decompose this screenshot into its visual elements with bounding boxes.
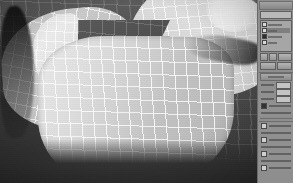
option-text-row [261, 130, 291, 136]
checkbox-icon[interactable] [261, 165, 267, 171]
image-border-bottom [0, 183, 293, 192]
command-panel-tab-bar[interactable] [259, 1, 293, 10]
screenshot-root [0, 0, 293, 192]
modifier-stack-button-row-2[interactable] [260, 62, 292, 70]
viewport[interactable] [0, 0, 257, 183]
modifier-name-input[interactable] [260, 11, 292, 19]
option-label [261, 132, 291, 134]
lightbulb-icon[interactable] [262, 22, 267, 27]
parameters-rollout-header[interactable] [260, 73, 292, 81]
checkbox-icon[interactable] [261, 151, 267, 157]
modifier-stack-item[interactable] [262, 40, 290, 45]
checkbox-icon[interactable] [261, 123, 267, 129]
panel-divider [260, 118, 292, 119]
modifier-stack-item-label [268, 24, 282, 26]
background-shadow-bottom [0, 139, 257, 183]
parameter-label [261, 91, 274, 93]
parameter-label [261, 98, 274, 100]
parameter-row[interactable] [261, 82, 291, 88]
pin-stack-button[interactable] [260, 53, 268, 61]
modifier-stack-item[interactable] [262, 28, 290, 33]
checkbox-label [269, 153, 291, 155]
modifier-stack-item-label [268, 36, 282, 38]
checkbox-label [269, 105, 291, 107]
lightbulb-icon[interactable] [262, 34, 267, 39]
parameter-text-row [261, 110, 291, 116]
command-panel[interactable] [257, 0, 293, 183]
parameters-rollout[interactable] [259, 72, 293, 116]
parameter-spinner[interactable] [276, 89, 291, 96]
checkbox-label [269, 125, 291, 127]
modifier-stack-item-label [268, 42, 277, 44]
option-checkbox-row[interactable] [261, 165, 291, 171]
rollout-title [268, 76, 284, 78]
modifier-stack-item[interactable] [262, 22, 290, 27]
parameter-row[interactable] [261, 89, 291, 95]
checkbox-label [269, 139, 291, 141]
option-checkbox-row[interactable] [261, 137, 291, 143]
parameter-spinner[interactable] [276, 82, 291, 89]
option-text-row [261, 144, 291, 150]
make-unique-button[interactable] [278, 53, 292, 61]
checkbox-icon[interactable] [261, 137, 267, 143]
parameter-spinner[interactable] [276, 96, 291, 103]
parameter-label [261, 112, 291, 114]
option-label [261, 160, 291, 162]
options-rollout[interactable] [259, 121, 293, 171]
checkbox-icon[interactable] [261, 103, 267, 109]
lightbulb-icon[interactable] [262, 28, 267, 33]
show-end-result-button[interactable] [269, 53, 277, 61]
parameter-checkbox-row[interactable] [261, 103, 291, 109]
checkbox-label [269, 167, 291, 169]
parameter-label [261, 84, 274, 86]
option-checkbox-row[interactable] [261, 151, 291, 157]
modifier-stack-item-label [268, 30, 277, 32]
modifier-stack-item[interactable] [262, 34, 290, 39]
modifier-stack-list[interactable] [260, 20, 292, 52]
option-label [261, 146, 291, 148]
lightbulb-icon[interactable] [262, 40, 267, 45]
parameter-row[interactable] [261, 96, 291, 102]
configure-sets-button[interactable] [277, 62, 293, 70]
modifier-stack-button-row[interactable] [260, 53, 292, 61]
remove-modifier-button[interactable] [260, 62, 276, 70]
option-checkbox-row[interactable] [261, 123, 291, 129]
option-text-row [261, 158, 291, 164]
